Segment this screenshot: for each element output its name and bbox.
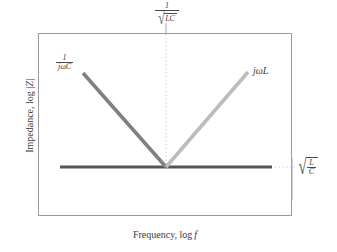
capacitive-reactance-label: 1 jωC: [56, 54, 73, 72]
x-axis-title-prefix: Frequency, log: [133, 229, 194, 240]
capacitive-fraction: 1 jωC: [56, 54, 73, 72]
impedance-log-log-figure: 1 √LC 1 jωC jωL √ L C Frequenc: [0, 0, 337, 252]
x-axis-title-variable: f: [194, 229, 197, 240]
resonance-sqrt: √LC: [157, 11, 177, 24]
y-axis-title-variable: |Z|: [24, 78, 35, 89]
x-axis-title: Frequency, log f: [38, 229, 292, 240]
radical-glyph: √: [298, 156, 306, 178]
characteristic-radicand: L C: [306, 157, 318, 177]
plot-frame: [38, 33, 292, 216]
resonance-denominator: √LC: [155, 11, 179, 24]
radical-glyph: √: [158, 9, 164, 27]
y-axis-title: Impedance, log |Z|: [24, 24, 35, 207]
y-axis-title-prefix: Impedance, log: [24, 89, 35, 153]
characteristic-denominator: C: [307, 168, 316, 176]
resonance-frequency-label: 1 √LC: [152, 2, 182, 24]
resonance-fraction: 1 √LC: [155, 2, 179, 24]
characteristic-sqrt: √ L C: [297, 157, 318, 177]
characteristic-fraction: L C: [307, 159, 316, 177]
capacitive-denominator: jωC: [56, 63, 73, 71]
resonance-radicand: LC: [164, 13, 177, 23]
inductive-reactance-label: jωL: [253, 66, 268, 77]
characteristic-impedance-label: √ L C: [297, 157, 318, 177]
